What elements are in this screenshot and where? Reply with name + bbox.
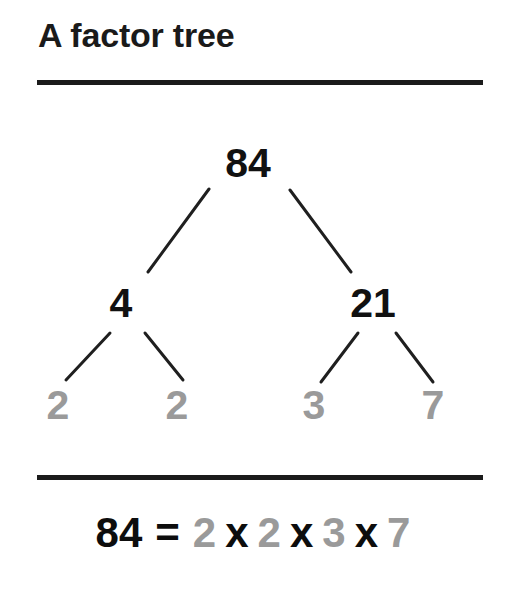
- branch-4-to-2-right: [145, 333, 183, 380]
- equation-factor-2: 2: [258, 512, 281, 554]
- equation-operator-1: x: [225, 512, 248, 554]
- tree-node-leaf-3: 3: [303, 385, 326, 426]
- tree-node-level2-left: 4: [110, 283, 133, 324]
- bottom-divider: [37, 475, 483, 480]
- equation-operator-3: x: [355, 512, 378, 554]
- tree-node-leaf-1: 2: [47, 385, 70, 426]
- equation-factor-1: 2: [193, 512, 216, 554]
- equation-operator-2: x: [290, 512, 313, 554]
- factor-tree-diagram: 84 4 21 2 2 3 7: [0, 95, 506, 465]
- equation-product: 84: [96, 512, 143, 554]
- branch-21-to-3: [321, 333, 358, 382]
- branch-84-to-21: [290, 190, 351, 272]
- branch-4-to-2-left: [66, 333, 110, 380]
- tree-node-leaf-2: 2: [166, 385, 189, 426]
- factor-tree-page: A factor tree 84 4 21 2 2: [0, 0, 506, 589]
- top-divider: [37, 80, 483, 85]
- equation-factor-4: 7: [387, 512, 410, 554]
- branch-21-to-7: [396, 333, 433, 382]
- branch-84-to-4: [148, 189, 209, 272]
- equation-factor-3: 3: [322, 512, 345, 554]
- page-title: A factor tree: [38, 16, 234, 55]
- tree-node-root: 84: [225, 143, 271, 184]
- tree-node-leaf-4: 7: [422, 385, 445, 426]
- tree-node-level2-right: 21: [350, 283, 396, 324]
- equation-equals-sign: =: [155, 512, 180, 554]
- factorization-equation: 84=2x2x3x7: [0, 512, 506, 554]
